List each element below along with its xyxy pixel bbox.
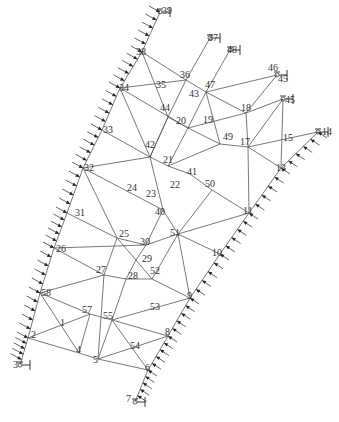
arrow-head-icon <box>237 229 241 233</box>
arrow-head-icon <box>214 263 218 267</box>
arrow-head-icon <box>181 313 185 317</box>
arrow-head-icon <box>138 396 142 400</box>
support-icon <box>17 360 30 370</box>
arrow-head-icon <box>156 356 160 360</box>
node-label: 10 <box>212 248 222 258</box>
node-label: 44 <box>160 103 170 113</box>
node-label: 2 <box>31 330 36 340</box>
node-label: 38 <box>136 47 146 57</box>
node-label: 3 <box>13 360 18 370</box>
node-label: 51 <box>170 228 180 238</box>
node-label: 35 <box>156 80 166 90</box>
node-label: 15 <box>283 133 293 143</box>
node-label: 11 <box>243 206 253 216</box>
node-label: 46 <box>268 63 278 73</box>
node-label: 49 <box>223 132 233 142</box>
node-label: 27 <box>96 265 106 275</box>
node-label: 20 <box>176 116 186 126</box>
member-line <box>104 275 126 279</box>
node-label: 26 <box>56 244 66 254</box>
member-line <box>28 338 79 353</box>
member-line <box>249 168 281 213</box>
member-line <box>112 320 168 336</box>
member-line <box>206 75 277 92</box>
arrow-head-icon <box>268 186 272 190</box>
node-label: 47 <box>205 80 215 90</box>
node-label: 30 <box>140 237 150 247</box>
member-line <box>54 245 146 248</box>
node-label: 4 <box>76 345 81 355</box>
arrow-head-icon <box>152 363 156 367</box>
support-icon <box>132 397 145 407</box>
node-label: 58 <box>41 288 51 298</box>
node-label: 7 <box>126 394 131 404</box>
node-label: 22 <box>170 180 180 190</box>
member-line <box>188 113 246 128</box>
arrow-head-icon <box>145 376 149 380</box>
node-label: 14 <box>322 127 332 137</box>
member-line <box>248 99 283 147</box>
arrow-head-icon <box>202 280 206 284</box>
node-label: 42 <box>145 140 155 150</box>
node-label: 41 <box>187 167 197 177</box>
member-line <box>178 234 190 298</box>
member-line <box>168 80 186 117</box>
arrow-head-icon <box>232 238 236 242</box>
member-line <box>190 254 220 298</box>
node-label: 55 <box>103 311 113 321</box>
arrow-head-icon <box>172 328 176 332</box>
node-label: 24 <box>127 183 137 193</box>
node-label: 36 <box>180 70 190 80</box>
member-line <box>28 314 90 338</box>
truss-diagram: 3938343332312658233748363547434420191846… <box>0 0 339 422</box>
node-label: 45 <box>278 74 288 84</box>
node-label: 52 <box>150 266 160 276</box>
member-line <box>178 190 212 234</box>
node-label: 45 <box>285 95 295 105</box>
member-line <box>152 279 190 298</box>
node-label: 57 <box>82 305 92 315</box>
arrow-head-icon <box>311 139 315 143</box>
node-label: 33 <box>103 125 113 135</box>
truss-lines <box>0 0 339 422</box>
arrow-head-icon <box>143 383 147 387</box>
node-label: 13 <box>276 163 286 173</box>
member-line <box>117 238 136 260</box>
node-label: 43 <box>189 89 199 99</box>
member-line <box>98 359 148 370</box>
member-line <box>206 92 246 113</box>
arrow-head-icon <box>243 221 247 225</box>
node-label: 54 <box>130 341 140 351</box>
member-line <box>120 80 186 88</box>
arrow-head-icon <box>262 195 266 199</box>
node-label: 37 <box>208 33 218 43</box>
arrow-head-icon <box>186 306 190 310</box>
node-label: 19 <box>203 115 213 125</box>
arrow-head-icon <box>226 246 230 250</box>
node-label: 29 <box>142 254 152 264</box>
member-line <box>83 168 117 238</box>
node-label: 50 <box>205 179 215 189</box>
node-label: 1 <box>60 318 65 328</box>
node-label: 34 <box>119 83 129 93</box>
node-label: 28 <box>128 271 138 281</box>
member-line <box>248 147 249 213</box>
member-line <box>168 144 220 166</box>
node-label: 5 <box>93 355 98 365</box>
node-label: 40 <box>155 207 165 217</box>
node-label: 39 <box>162 6 172 16</box>
member-line <box>135 370 148 402</box>
member-line <box>150 117 168 157</box>
node-label: 53 <box>150 302 160 312</box>
member-line <box>188 128 220 144</box>
node-label: 32 <box>84 163 94 173</box>
arrow-head-icon <box>140 389 144 393</box>
node-label: 25 <box>119 229 129 239</box>
arrow-head-icon <box>296 154 300 158</box>
node-label: 8 <box>165 327 170 337</box>
node-label: 21 <box>163 155 173 165</box>
node-label: 9 <box>187 291 192 301</box>
arrow-head-icon <box>196 289 200 293</box>
arrow-head-icon <box>160 350 164 354</box>
node-label: 48 <box>227 45 237 55</box>
